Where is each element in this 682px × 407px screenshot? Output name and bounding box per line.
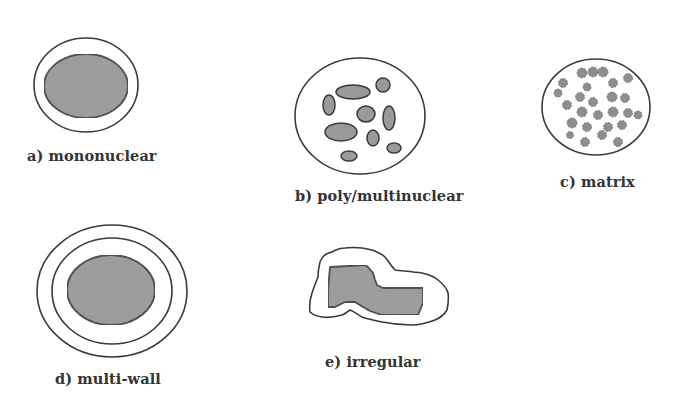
label-c-matrix: c) matrix — [560, 175, 635, 190]
label-d-multi-wall: d) multi-wall — [55, 372, 161, 387]
panel-b-poly-multinuclear — [295, 58, 425, 174]
label-e-irregular: e) irregular — [325, 355, 421, 370]
label-b-poly-multinuclear: b) poly/multinuclear — [295, 189, 463, 204]
panel-e-irregular — [310, 248, 449, 325]
panel-a-mononuclear — [34, 38, 138, 132]
panel-d-multi-wall — [37, 225, 187, 357]
label-a-mononuclear: a) mononuclear — [27, 149, 157, 164]
core — [67, 255, 155, 325]
panel-c-matrix — [542, 59, 650, 155]
microcapsule-morphology-diagram: a) mononuclear b) poly/multinuclear c) m… — [0, 0, 682, 407]
core — [44, 54, 128, 118]
